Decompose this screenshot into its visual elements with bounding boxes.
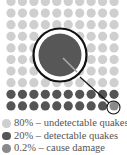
grid-dot (6, 67, 15, 76)
grid-dot (64, 101, 73, 110)
grid-dot (6, 55, 15, 64)
grid-dot (98, 43, 107, 52)
legend-item-damage: 0.2% – cause damage (0, 142, 127, 155)
grid-dot (64, 90, 73, 99)
grid-dot (64, 9, 73, 18)
grid-dot (29, 90, 38, 99)
grid-dot (109, 32, 118, 41)
grid-dot (18, 20, 27, 29)
grid-dot (87, 78, 96, 87)
grid-dot (18, 101, 27, 110)
grid-dot (6, 9, 15, 18)
grid-dot (52, 90, 61, 99)
grid-dot (64, 0, 73, 6)
grid-dot (109, 78, 118, 87)
grid-dot (109, 9, 118, 18)
legend-dot-icon (2, 144, 11, 153)
grid-dot (18, 0, 27, 6)
grid-dot (29, 101, 38, 110)
grid-dot (18, 55, 27, 64)
grid-dot (52, 101, 61, 110)
grid-dot (98, 67, 107, 76)
legend-item-undetectable: 80% – undetectable quakes (0, 117, 127, 130)
dot-grid (0, 0, 127, 117)
legend-dot-icon (2, 119, 11, 128)
grid-dot (18, 78, 27, 87)
grid-dot (109, 43, 118, 52)
legend: 80% – undetectable quakes 20% – detectab… (0, 117, 127, 155)
grid-dot (75, 0, 84, 6)
grid-dot (18, 67, 27, 76)
grid-dot (98, 101, 107, 110)
legend-label: 80% – undetectable quakes (14, 117, 127, 128)
grid-dot (6, 32, 15, 41)
legend-label: 0.2% – cause damage (14, 142, 105, 153)
legend-label: 20% – detectable quakes (14, 130, 118, 141)
grid-dot (18, 43, 27, 52)
grid-dot (29, 0, 38, 6)
grid-dot (41, 101, 50, 110)
grid-dot (87, 32, 96, 41)
grid-dot (109, 20, 118, 29)
grid-dot (29, 32, 38, 41)
grid-dot (18, 90, 27, 99)
grid-dot (75, 9, 84, 18)
grid-dot (29, 78, 38, 87)
grid-dot (18, 9, 27, 18)
grid-dot (98, 20, 107, 29)
grid-dot (98, 32, 107, 41)
grid-dot (87, 101, 96, 110)
grid-dot (6, 20, 15, 29)
grid-dot (6, 0, 15, 6)
grid-dot (29, 9, 38, 18)
grid-dot (41, 20, 50, 29)
grid-dot (6, 78, 15, 87)
grid-dot (98, 0, 107, 6)
grid-dot (29, 20, 38, 29)
grid-dot (98, 9, 107, 18)
grid-dot (75, 90, 84, 99)
grid-dot (41, 0, 50, 6)
grid-dot (6, 90, 15, 99)
grid-dot (52, 0, 61, 6)
legend-dot-icon (2, 132, 11, 141)
grid-dot (87, 67, 96, 76)
grid-dot (6, 43, 15, 52)
earthquake-dot-diagram: 80% – undetectable quakes 20% – detectab… (0, 0, 127, 155)
grid-dot (98, 55, 107, 64)
grid-dot (87, 20, 96, 29)
grid-dot (109, 0, 118, 6)
grid-dot (87, 55, 96, 64)
grid-dot (75, 101, 84, 110)
grid-dot (75, 20, 84, 29)
grid-dot (41, 90, 50, 99)
grid-dot (52, 9, 61, 18)
grid-dot (109, 67, 118, 76)
grid-dot (109, 55, 118, 64)
grid-dot (87, 0, 96, 6)
grid-dot (6, 101, 15, 110)
grid-dot (98, 78, 107, 87)
grid-dot (18, 32, 27, 41)
grid-dot (41, 9, 50, 18)
grid-dot (87, 9, 96, 18)
grid-dot (87, 90, 96, 99)
legend-item-detectable: 20% – detectable quakes (0, 130, 127, 143)
grid-dot (109, 90, 118, 99)
grid-dot (87, 43, 96, 52)
